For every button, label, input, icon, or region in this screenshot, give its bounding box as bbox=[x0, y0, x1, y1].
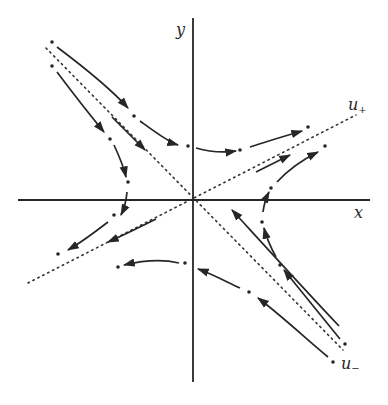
trajectory-right-hyperbola bbox=[260, 144, 347, 346]
trajectory-bottom-right-to-y-axis bbox=[198, 269, 335, 364]
trajectory-upper-left-to-upper-right bbox=[50, 40, 310, 152]
trajectory-left-hyperbola bbox=[50, 64, 130, 256]
u-minus-base: u bbox=[341, 354, 351, 373]
u-plus-base: u bbox=[348, 95, 358, 114]
y-axis-label: y bbox=[175, 20, 186, 39]
u-minus-subscript: − bbox=[351, 363, 359, 374]
u-plus-subscript: + bbox=[358, 104, 366, 115]
u-plus-label: u+ bbox=[348, 95, 367, 115]
unstable-manifold-u-plus bbox=[28, 115, 356, 283]
phase-portrait-diagram: y x u+ u− bbox=[0, 0, 388, 405]
x-axis-label: x bbox=[354, 203, 363, 222]
trajectory-lower-center bbox=[116, 261, 187, 269]
trajectory-along-u-minus-lower bbox=[232, 210, 339, 326]
u-minus-label: u− bbox=[341, 354, 360, 374]
trajectory-along-u-plus-lower-left bbox=[108, 219, 156, 242]
stable-manifold-u-minus bbox=[46, 48, 343, 350]
